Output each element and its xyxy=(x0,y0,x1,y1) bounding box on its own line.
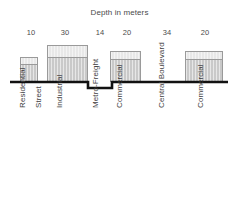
category-label-commercial-1: Commercial xyxy=(115,64,124,108)
category-label-residential: Residential xyxy=(18,67,27,108)
category-label-central-boulevard: Central Boulevard xyxy=(157,42,166,108)
category-label-commercial-2: Commercial xyxy=(196,64,205,108)
depth-profile-chart: Depth in meters 10 30 14 20 34 20 Reside… xyxy=(0,0,239,203)
category-label-industrial: Industrial xyxy=(55,75,64,108)
category-label-metro-freight: Metro-Freight xyxy=(91,59,100,108)
category-label-street: Street xyxy=(34,86,43,108)
